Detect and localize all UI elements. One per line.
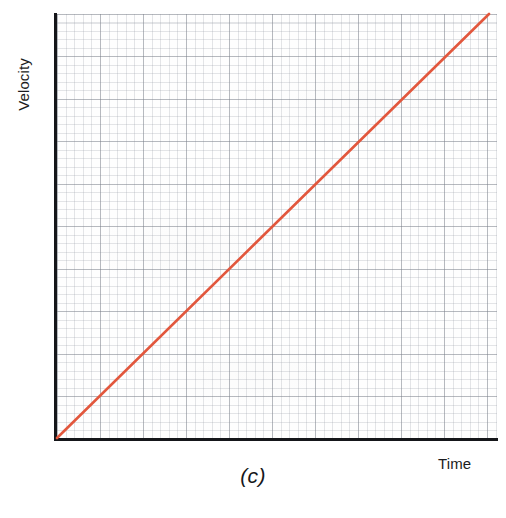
- velocity-time-figure: Velocity Time (c): [0, 0, 506, 518]
- paper-texture-overlay: [57, 14, 497, 439]
- y-axis-label: Velocity: [15, 39, 32, 131]
- figure-caption: (c): [0, 464, 506, 488]
- y-axis-line: [54, 13, 57, 441]
- plot-area-graph-paper: [57, 14, 497, 439]
- x-axis-line: [54, 438, 498, 441]
